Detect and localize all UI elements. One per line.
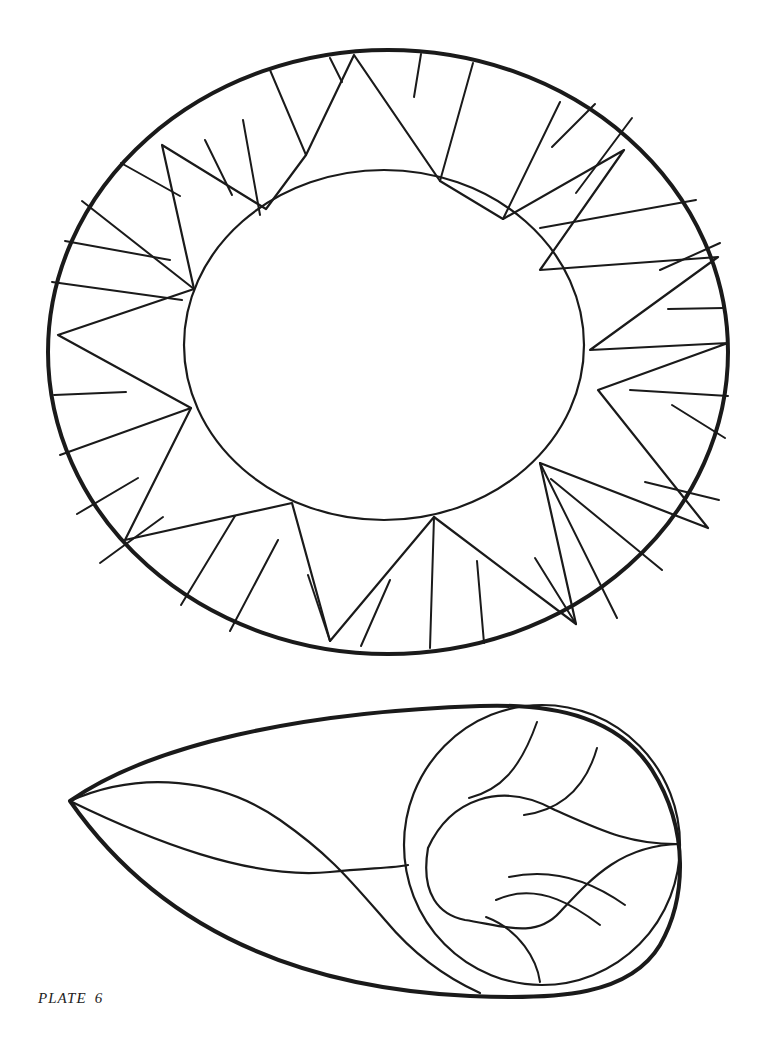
teardrop-leaf-figure: [70, 705, 680, 997]
plate-caption: PLATE6: [38, 990, 103, 1007]
outer-oval: [48, 50, 728, 654]
circle-segment-arcs: [469, 722, 625, 982]
oval-sunburst-figure: [48, 50, 728, 654]
inner-oval: [184, 170, 584, 520]
teardrop-outline: [70, 706, 680, 997]
plate-number: 6: [95, 990, 104, 1006]
star-zigzag: [58, 55, 728, 641]
leaf-lens-upper: [70, 782, 480, 993]
heart-shape: [426, 796, 680, 929]
plate-drawing: [0, 0, 762, 1053]
plate-label: PLATE: [38, 990, 87, 1006]
inner-circle: [404, 705, 680, 985]
ray-lines: [52, 54, 728, 648]
